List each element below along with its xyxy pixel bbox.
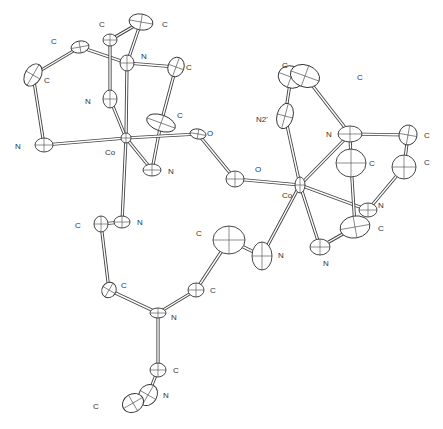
atom-n-icon [114, 216, 130, 228]
atom-n-icon [120, 55, 134, 71]
atom-co-icon [295, 177, 305, 193]
atom-label: N [15, 142, 21, 151]
bond-layer [33, 22, 408, 403]
atom-c-icon [103, 34, 117, 46]
atom-label: N [378, 201, 384, 210]
atom-label: N [326, 130, 332, 139]
atom-c-icon [338, 214, 371, 241]
atom-n-icon [274, 101, 296, 130]
bond-c4-n3 [33, 75, 44, 145]
atom-c-icon [336, 149, 366, 177]
atom-label: N [137, 218, 143, 227]
atom-label: C [121, 281, 127, 290]
atom-label: C [369, 159, 375, 168]
atom-label: N [141, 52, 147, 61]
atom-label: N [168, 167, 174, 176]
atom-label: C [357, 73, 363, 82]
atom-label: C [424, 158, 430, 167]
atom-label: C [282, 61, 288, 70]
atom-n-icon [35, 138, 53, 152]
atom-label: O [255, 165, 261, 174]
atom-label: N [278, 251, 284, 260]
atom-co-icon [121, 133, 131, 143]
atom-label: N [171, 313, 177, 322]
atom-label: C [186, 63, 192, 72]
atom-label: C [210, 286, 216, 295]
atom-n-icon [150, 308, 166, 318]
bond-co2-n8 [300, 185, 320, 247]
atom-n-icon [143, 164, 161, 176]
atom-o-icon [226, 171, 244, 187]
atom-c-icon [144, 110, 178, 135]
atom-label: O [207, 129, 213, 138]
bond-o2-co2 [235, 179, 300, 185]
bond-co1-n10 [122, 138, 126, 222]
atom-c-icon [397, 124, 418, 147]
atom-label: C [93, 402, 99, 411]
atom-label: N [163, 391, 169, 400]
atom-c-icon [188, 283, 204, 297]
atom-label: N [85, 97, 91, 106]
atom-label: C [196, 229, 202, 238]
atom-c-icon [392, 155, 416, 179]
atom-n-icon [252, 242, 272, 270]
atom-n-icon [338, 126, 362, 142]
atom-o-icon [189, 128, 206, 141]
atom-n-icon [359, 203, 377, 217]
atom-label: N [323, 259, 329, 268]
atom-label: Co [282, 191, 293, 200]
atom-c-icon [150, 363, 166, 377]
atom-label: C [162, 20, 168, 29]
bond-n3-co1 [44, 138, 126, 145]
atom-label: C [51, 37, 57, 46]
ortep-molecular-diagram: CCCCNCNCNCoONOCCN2'NCCCCoNCNNCCNCNCCNC [0, 0, 443, 429]
bond-co1-o1 [126, 134, 198, 138]
atom-c-icon [213, 226, 245, 254]
atom-label: Co [105, 148, 116, 157]
atom-label: N2' [256, 115, 268, 124]
atom-label: C [173, 366, 179, 375]
atom-c-icon [20, 61, 46, 90]
atom-label: C [75, 221, 81, 230]
atom-label: C [44, 76, 50, 85]
atom-label: C [177, 111, 183, 120]
atom-label: C [99, 20, 105, 29]
bond-c15-n11 [109, 290, 158, 313]
atom-c-icon [99, 280, 119, 301]
bond-c14-c15 [101, 224, 109, 290]
atom-c-icon [165, 55, 187, 79]
bond-n1-co1 [126, 63, 127, 138]
atom-n-icon [310, 239, 330, 255]
atom-label: C [424, 131, 430, 140]
atom-n-icon [103, 90, 117, 108]
atom-label: C [378, 224, 384, 233]
atom-c-icon [94, 216, 108, 232]
bond-n7-co2 [300, 185, 368, 210]
